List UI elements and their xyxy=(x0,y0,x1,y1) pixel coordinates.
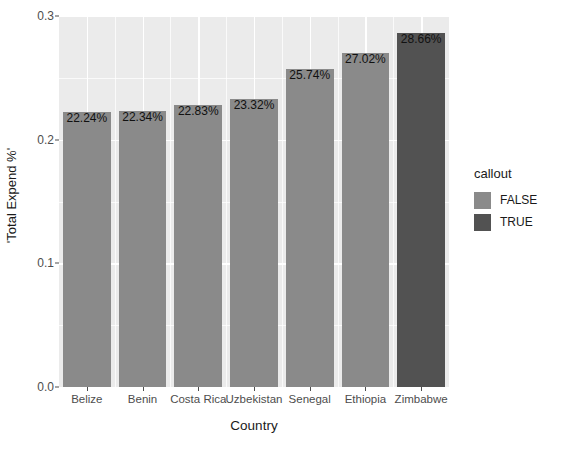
legend-swatch xyxy=(474,192,491,209)
legend-item-label: FALSE xyxy=(500,193,537,207)
legend-title: callout xyxy=(474,166,559,181)
plot-panel: 22.24%22.34%22.83%23.32%25.74%27.02%28.6… xyxy=(59,16,449,387)
bar xyxy=(342,53,390,387)
x-axis-tick-label: Senegal xyxy=(289,393,331,405)
x-axis-tick-label: Belize xyxy=(71,393,102,405)
gridline-minor-vertical xyxy=(338,16,339,387)
x-axis-tick-mark xyxy=(87,387,88,391)
bar-value-label: 28.66% xyxy=(401,32,442,46)
bar-value-label: 22.83% xyxy=(178,104,219,118)
bar xyxy=(174,105,222,387)
legend-swatch xyxy=(474,214,491,231)
x-axis-tick-labels: BelizeBeninCosta RicaUzbekistanSenegalEt… xyxy=(59,387,449,417)
y-axis-tick-label: 0.0 xyxy=(20,380,54,394)
x-axis-tick-label: Ethiopia xyxy=(345,393,387,405)
x-axis-title: Country xyxy=(59,418,449,433)
bar xyxy=(119,111,167,387)
bar xyxy=(397,33,445,387)
x-axis-tick-label: Uzbekistan xyxy=(226,393,283,405)
bar-value-label: 25.74% xyxy=(289,68,330,82)
y-axis-tick-label: 0.3 xyxy=(20,9,54,23)
bar-value-label: 27.02% xyxy=(345,52,386,66)
legend-item[interactable]: TRUE xyxy=(474,211,559,233)
gridline-minor-vertical xyxy=(115,16,116,387)
x-axis-tick-mark xyxy=(310,387,311,391)
gridline-minor-vertical xyxy=(226,16,227,387)
y-axis-tick-mark xyxy=(55,387,59,388)
bar xyxy=(286,69,334,387)
y-axis-tick-mark xyxy=(55,263,59,264)
legend-item[interactable]: FALSE xyxy=(474,189,559,211)
x-axis-tick-mark xyxy=(365,387,366,391)
y-axis-title-text: 'Total Expend %' xyxy=(5,147,20,242)
x-axis-tick-mark xyxy=(143,387,144,391)
x-axis-tick-mark xyxy=(421,387,422,391)
gridline-minor-vertical xyxy=(170,16,171,387)
x-axis-tick-label: Benin xyxy=(128,393,157,405)
chart-container: 'Total Expend %' 0.00.10.20.3 22.24%22.3… xyxy=(0,0,561,451)
x-axis-tick-label: Costa Rica xyxy=(170,393,226,405)
legend-item-label: TRUE xyxy=(500,215,533,229)
legend: callout FALSETRUE xyxy=(474,166,559,233)
bar-value-label: 22.24% xyxy=(66,111,107,125)
bar xyxy=(230,99,278,387)
gridline-minor-vertical xyxy=(282,16,283,387)
x-axis-tick-label: Zimbabwe xyxy=(395,393,448,405)
y-axis-tick-mark xyxy=(55,139,59,140)
x-axis-tick-mark xyxy=(198,387,199,391)
y-axis-tick-label: 0.1 xyxy=(20,256,54,270)
legend-entries: FALSETRUE xyxy=(474,189,559,233)
bar-value-label: 23.32% xyxy=(234,98,275,112)
x-axis-tick-mark xyxy=(254,387,255,391)
y-axis-tick-mark xyxy=(55,16,59,17)
y-axis-tick-labels: 0.00.10.20.3 xyxy=(20,0,54,451)
y-axis-tick-label: 0.2 xyxy=(20,133,54,147)
bar-value-label: 22.34% xyxy=(122,110,163,124)
gridline-minor-vertical xyxy=(393,16,394,387)
bar xyxy=(63,112,111,387)
